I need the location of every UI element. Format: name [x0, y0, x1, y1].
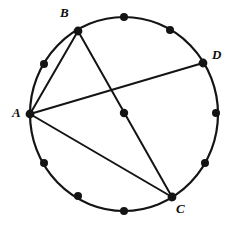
- circumference-dot: [212, 109, 220, 117]
- circumference-dot: [74, 192, 82, 200]
- circumference-point-markers: [40, 13, 220, 215]
- circle-center-dot: [120, 109, 128, 117]
- geometry-canvas: [0, 0, 236, 226]
- circumference-dot: [201, 159, 209, 167]
- point-label-d: D: [212, 48, 221, 61]
- point-label-b: B: [60, 6, 69, 19]
- point-label-a: A: [12, 106, 21, 119]
- labeled-point-markers: [26, 27, 208, 202]
- circumference-dot: [40, 60, 48, 68]
- chord-a-to-c: [30, 114, 172, 197]
- center-point-marker: [120, 109, 128, 117]
- circumference-dot: [120, 13, 128, 21]
- circle-geometry-figure: A B C D: [0, 0, 236, 226]
- vertex-dot-a: [26, 110, 35, 119]
- vertex-dot-d: [199, 59, 208, 68]
- circumference-dot: [40, 159, 48, 167]
- vertex-dot-b: [74, 27, 83, 36]
- circumference-dot: [120, 207, 128, 215]
- point-label-c: C: [176, 202, 185, 215]
- circumference-dot: [166, 26, 174, 34]
- chord-group: [30, 31, 203, 197]
